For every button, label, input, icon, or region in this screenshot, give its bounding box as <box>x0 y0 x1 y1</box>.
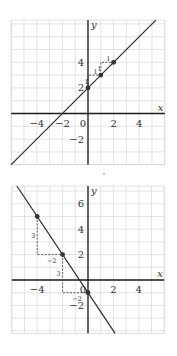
x-tick-label: 4 <box>136 284 142 295</box>
run-label: −2 <box>72 295 82 303</box>
y-tick-label: 6 <box>78 198 84 209</box>
x-tick-label: −4 <box>29 118 44 129</box>
stray-dot <box>103 173 105 175</box>
y-axis-label: y <box>90 19 97 30</box>
y-tick-label: 4 <box>78 224 84 235</box>
x-axis-label: x <box>158 102 164 113</box>
data-point <box>111 60 116 65</box>
data-point <box>86 86 91 91</box>
run-label: 1 <box>106 55 110 63</box>
y-tick-label: −2 <box>69 134 84 145</box>
graph-top-y-equals-x-plus-2: xy−4−2024−2241111 <box>11 19 165 165</box>
data-point <box>98 73 103 78</box>
y-tick-label: 4 <box>78 57 84 68</box>
rise-label: 1 <box>97 65 101 73</box>
run-label: −2 <box>47 257 57 265</box>
x-axis-label: x <box>157 268 163 279</box>
y-axis-label: y <box>90 185 97 196</box>
graphs-canvas: xy−4−2024−2241111 xy−4024−22463−23−2 <box>0 0 177 356</box>
data-point <box>60 252 65 257</box>
data-point <box>35 214 40 219</box>
rise-label: 1 <box>85 78 89 86</box>
x-tick-label: 2 <box>110 284 116 295</box>
x-tick-label: 4 <box>136 118 142 129</box>
graph-bottom-slope-neg-three-halves: xy−4024−22463−23−2 <box>12 185 164 333</box>
x-tick-label: 0 <box>80 118 86 129</box>
rise-label: 3 <box>31 232 35 240</box>
y-tick-label: 2 <box>78 249 84 260</box>
x-tick-label: 2 <box>110 118 116 129</box>
data-point <box>86 290 91 295</box>
y-tick-label: 2 <box>78 82 84 93</box>
rise-label: 3 <box>57 270 61 278</box>
x-tick-label: −4 <box>30 284 45 295</box>
